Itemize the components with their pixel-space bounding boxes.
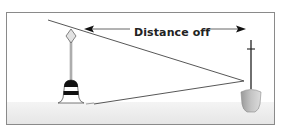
distance-off-label: Distance off [134,26,210,39]
water-surface [7,102,274,124]
distance-off-diagram [0,0,282,130]
